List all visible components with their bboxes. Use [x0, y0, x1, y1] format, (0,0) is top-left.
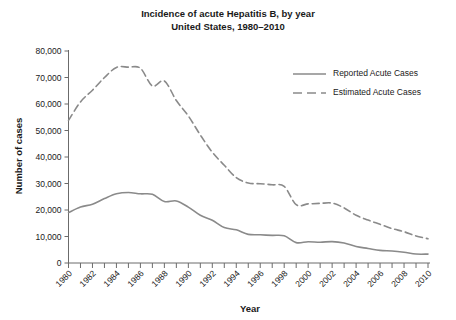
y-tick-label: 70,000: [36, 73, 62, 83]
x-tick-label: 2010: [413, 268, 434, 289]
chart-legend: Reported Acute CasesEstimated Acute Case…: [293, 68, 421, 97]
series-line-0: [69, 192, 429, 254]
x-tick-label: 1994: [221, 268, 242, 289]
chart-page: Incidence of acute Hepatitis B, by year …: [0, 0, 456, 320]
y-tick-label: 20,000: [36, 205, 62, 215]
y-tick-label: 80,000: [36, 46, 62, 56]
x-tick-label: 1990: [173, 268, 194, 289]
line-chart: 010,00020,00030,00040,00050,00060,00070,…: [0, 0, 456, 320]
y-tick-label: 40,000: [36, 152, 62, 162]
x-tick-label: 1982: [77, 268, 98, 289]
x-tick-label: 1998: [269, 268, 290, 289]
x-tick-label: 1980: [53, 268, 74, 289]
x-axis: 1980198219841986198819901992199419961998…: [53, 263, 433, 289]
legend-label-0: Reported Acute Cases: [333, 68, 418, 78]
y-tick-label: 30,000: [36, 179, 62, 189]
x-tick-label: 2006: [365, 268, 386, 289]
y-axis: 010,00020,00030,00040,00050,00060,00070,…: [36, 46, 69, 268]
x-tick-label: 1992: [197, 268, 218, 289]
x-tick-label: 1984: [101, 268, 122, 289]
x-tick-label: 1986: [125, 268, 146, 289]
x-tick-label: 2002: [317, 268, 338, 289]
y-tick-label: 50,000: [36, 126, 62, 136]
y-tick-label: 10,000: [36, 232, 62, 242]
y-axis-title: Number of cases: [13, 118, 24, 195]
y-tick-label: 0: [57, 258, 62, 268]
x-axis-title: Year: [240, 303, 260, 314]
x-tick-label: 1988: [149, 268, 170, 289]
x-tick-label: 1996: [245, 268, 266, 289]
legend-label-1: Estimated Acute Cases: [333, 87, 421, 97]
y-tick-label: 60,000: [36, 99, 62, 109]
x-tick-label: 2000: [293, 268, 314, 289]
x-tick-label: 2004: [341, 268, 362, 289]
x-tick-label: 2008: [389, 268, 410, 289]
